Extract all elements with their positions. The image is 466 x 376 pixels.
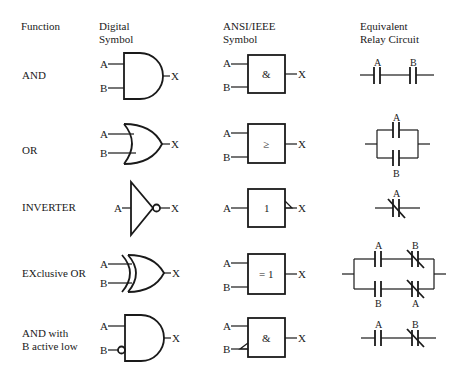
label-output-x: X xyxy=(298,332,306,344)
digital-xor-gate-icon xyxy=(108,255,171,292)
relay-xor-contacts-icon xyxy=(342,250,446,298)
label-output-x: X xyxy=(171,202,179,214)
digital-and-gate-icon xyxy=(108,53,170,99)
label-input-b: B xyxy=(223,81,230,93)
ansi-xor-label: = 1 xyxy=(259,268,273,280)
label-output-x: X xyxy=(171,70,179,82)
label-input-a: A xyxy=(100,128,108,140)
logic-symbols-diagram: A B X A B & X A B A B X A B ≥ X A B A X … xyxy=(0,0,466,376)
label-output-x: X xyxy=(171,138,179,150)
ansi-and-label: & xyxy=(262,68,271,80)
label-input-a: A xyxy=(100,320,108,332)
label-output-x: X xyxy=(172,332,180,344)
relay-and-active-low-contacts-icon xyxy=(361,329,436,347)
relay-label: A xyxy=(374,57,382,68)
relay-label: B xyxy=(412,319,419,330)
ansi-inverter-label: 1 xyxy=(264,202,270,214)
label-output-x: X xyxy=(298,138,306,150)
digital-and-active-low-gate-icon xyxy=(108,315,171,361)
digital-inverter-gate-icon xyxy=(122,182,170,235)
label-input-a: A xyxy=(223,320,231,332)
label-input-b: B xyxy=(100,344,107,356)
label-input-b: B xyxy=(223,151,230,163)
relay-label: B xyxy=(393,168,400,179)
relay-inverter-nc-contact-icon xyxy=(375,199,420,218)
relay-label: A xyxy=(375,240,383,251)
relay-or-parallel-contacts-icon xyxy=(365,122,430,166)
label-input-a: A xyxy=(114,202,122,214)
label-input-b: B xyxy=(100,82,107,94)
relay-label: B xyxy=(410,57,417,68)
label-input-a: A xyxy=(100,58,108,70)
label-input-a: A xyxy=(223,57,231,69)
label-input-a: A xyxy=(223,202,231,214)
label-input-b: B xyxy=(100,147,107,159)
relay-and-series-contacts-icon xyxy=(360,67,434,84)
label-input-a: A xyxy=(223,127,231,139)
relay-label: B xyxy=(412,240,419,251)
ansi-or-label: ≥ xyxy=(263,138,269,150)
relay-label: B xyxy=(375,298,382,309)
relay-label: A xyxy=(412,298,420,309)
ansi-and-label: & xyxy=(262,332,271,344)
label-output-x: X xyxy=(298,68,306,80)
relay-label: A xyxy=(393,112,401,123)
label-input-b: B xyxy=(223,343,230,355)
label-input-b: B xyxy=(100,277,107,289)
label-input-b: B xyxy=(223,281,230,293)
relay-label: A xyxy=(393,188,401,199)
label-input-a: A xyxy=(100,258,108,270)
label-output-x: X xyxy=(298,202,306,214)
relay-label: A xyxy=(375,319,383,330)
label-output-x: X xyxy=(298,268,306,280)
label-input-a: A xyxy=(223,257,231,269)
label-output-x: X xyxy=(172,267,180,279)
digital-or-gate-icon xyxy=(108,124,170,164)
